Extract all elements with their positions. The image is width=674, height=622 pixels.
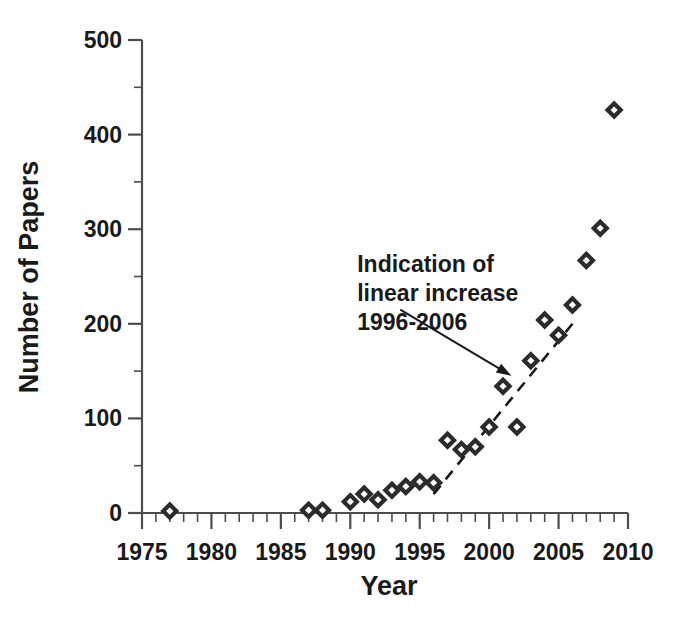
x-tick-label-2010: 2010	[602, 539, 653, 565]
x-tick-label-2000: 2000	[464, 539, 515, 565]
x-axis-title: Year	[360, 571, 418, 601]
x-tick-label-2005: 2005	[533, 539, 584, 565]
x-tick-label-1990: 1990	[325, 539, 376, 565]
annotation-line-1: Indication of	[357, 251, 494, 277]
x-tick-label-1995: 1995	[394, 539, 445, 565]
annotation-line-3: 1996-2006	[357, 309, 467, 335]
y-tick-label-400: 400	[84, 122, 122, 148]
y-tick-label-100: 100	[84, 405, 122, 431]
y-tick-label-500: 500	[84, 27, 122, 53]
annotation-line-2: linear increase	[357, 280, 518, 306]
chart-figure: 0100200300400500 19751980198519901995200…	[0, 0, 674, 622]
x-tick-label-1985: 1985	[255, 539, 306, 565]
y-tick-label-0: 0	[109, 500, 122, 526]
y-tick-label-300: 300	[84, 216, 122, 242]
x-tick-label-1975: 1975	[116, 539, 167, 565]
papers-per-year-scatter-chart: 0100200300400500 19751980198519901995200…	[0, 0, 674, 622]
y-tick-label-200: 200	[84, 311, 122, 337]
x-tick-label-1980: 1980	[186, 539, 237, 565]
y-axis-title: Number of Papers	[14, 161, 44, 394]
